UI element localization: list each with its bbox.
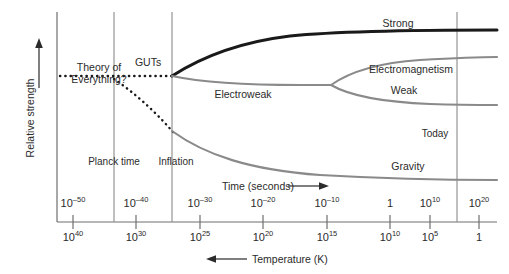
time-axis-title: Time (seconds) xyxy=(222,180,294,192)
time-tick-exponent-1: –40 xyxy=(136,195,149,204)
y-axis-title: Relative strength xyxy=(24,68,36,168)
time-axis-arrow xyxy=(288,182,329,190)
temperature-tick-6: 105 xyxy=(422,231,438,243)
temperature-tick-4: 1015 xyxy=(317,231,338,243)
time-tick-6: 1010 xyxy=(420,197,441,209)
label-theory-of-everything: Theory of Everything? xyxy=(60,62,138,85)
curve-gravity-dotted xyxy=(114,79,173,132)
time-tick-1: 10–40 xyxy=(124,197,149,209)
time-tick-5: 1 xyxy=(387,197,393,209)
temperature-tick-7: 1 xyxy=(476,231,482,243)
toe-line-1: Theory of xyxy=(60,62,138,74)
time-tick-exponent-4: –10 xyxy=(327,195,340,204)
label-electroweak: Electroweak xyxy=(214,88,271,100)
time-tick-7: 1020 xyxy=(469,197,490,209)
time-tick-exponent-3: –20 xyxy=(263,195,276,204)
temperature-tick-exponent-1: 30 xyxy=(138,229,146,238)
label-strong: Strong xyxy=(383,17,414,29)
time-tick-0: 10–50 xyxy=(61,197,86,209)
temperature-tick-5: 1010 xyxy=(380,231,401,243)
temperature-tick-exponent-0: 40 xyxy=(75,229,83,238)
temperature-axis-arrow xyxy=(206,255,247,263)
time-tick-exponent-7: 20 xyxy=(481,195,489,204)
label-weak: Weak xyxy=(391,84,418,96)
time-tick-exponent-0: –50 xyxy=(73,195,86,204)
force-unification-diagram: Relative strength Theory of Everything? … xyxy=(0,0,509,274)
temperature-tick-exponent-3: 20 xyxy=(265,229,273,238)
time-tick-3: 10–20 xyxy=(251,197,276,209)
label-electromagnetism: Electromagnetism xyxy=(369,63,453,75)
temperature-tick-1: 1030 xyxy=(126,231,147,243)
label-guts: GUTs xyxy=(135,56,161,68)
time-tick-4: 10–10 xyxy=(315,197,340,209)
curve-electroweak xyxy=(172,76,331,85)
temperature-tick-exponent-4: 15 xyxy=(329,229,337,238)
temperature-axis-title: Temperature (K) xyxy=(252,253,328,265)
label-planck-time: Planck time xyxy=(88,156,140,167)
label-gravity: Gravity xyxy=(391,160,424,172)
temperature-tick-exponent-2: 25 xyxy=(202,229,210,238)
time-tick-exponent-2: –30 xyxy=(200,195,213,204)
temperature-tick-2: 1025 xyxy=(190,231,211,243)
temperature-tick-3: 1020 xyxy=(253,231,274,243)
temperature-tick-0: 1040 xyxy=(63,231,84,243)
time-tick-exponent-6: 10 xyxy=(432,195,440,204)
temperature-tick-exponent-5: 10 xyxy=(392,229,400,238)
y-axis-arrow xyxy=(35,38,43,88)
time-tick-2: 10–30 xyxy=(188,197,213,209)
label-inflation: Inflation xyxy=(158,156,193,167)
toe-line-2: Everything? xyxy=(60,74,138,86)
temperature-tick-exponent-6: 5 xyxy=(434,229,438,238)
label-today: Today xyxy=(422,128,449,139)
